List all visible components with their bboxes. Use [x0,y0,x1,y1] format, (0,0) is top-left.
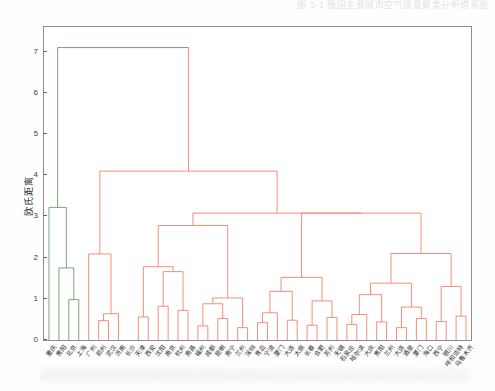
y-tick-mark [43,51,47,52]
y-tick-mark [43,257,47,258]
y-tick-mark [43,92,47,93]
scan-artifact-band [40,368,470,382]
page-header-band: 图 3-1 我国主要城市空气质量聚类分析谱系图 [0,0,495,13]
plot-area [43,26,472,341]
y-tick-label: 7 [34,46,38,55]
dendrogram-links [44,27,471,340]
y-tick-mark [43,174,47,175]
y-tick-label: 4 [34,170,38,179]
y-tick-label: 3 [34,211,38,220]
y-tick-label: 2 [34,252,38,261]
cutoff-caption: 图 3-1 我国主要城市空气质量聚类分析谱系图 [297,0,489,11]
y-tick-label: 6 [34,87,38,96]
y-axis-tick-labels: 01234567 [0,26,38,341]
dendrogram-figure: 图 3-1 我国主要城市空气质量聚类分析谱系图 欧氏距离 01234567 重庆… [0,0,495,391]
dendrogram-canvas [44,27,471,340]
y-tick-mark [43,133,47,134]
y-tick-mark [43,215,47,216]
y-tick-mark [43,339,47,340]
y-tick-label: 1 [34,293,38,302]
x-axis-leaf-labels: 重庆贵阳北京上海广州郑州武汉济南长沙天津西安沈阳南京杭州南昌福州成都昆明南宁兰州… [0,343,495,391]
y-tick-label: 5 [34,129,38,138]
y-tick-mark [43,298,47,299]
